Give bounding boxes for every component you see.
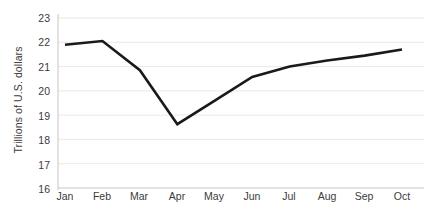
x-axis-tick-label-aug: Aug	[307, 191, 347, 202]
data-series-line	[65, 41, 402, 124]
x-axis-tick-label-jun: Jun	[232, 191, 272, 202]
plot-area	[0, 0, 428, 217]
x-axis-tick-label-may: May	[194, 191, 234, 202]
x-axis-tick-label-oct: Oct	[382, 191, 422, 202]
x-axis-tick-label-jan: Jan	[45, 191, 85, 202]
line-chart: Trillions of U.S. dollars 23 22 21 20 19…	[0, 0, 428, 217]
x-axis-tick-label-jul: Jul	[269, 191, 309, 202]
x-axis-tick-label-mar: Mar	[119, 191, 159, 202]
x-axis-tick-label-feb: Feb	[82, 191, 122, 202]
x-axis-tick-label-apr: Apr	[157, 191, 197, 202]
x-axis-tick-label-sep: Sep	[344, 191, 384, 202]
